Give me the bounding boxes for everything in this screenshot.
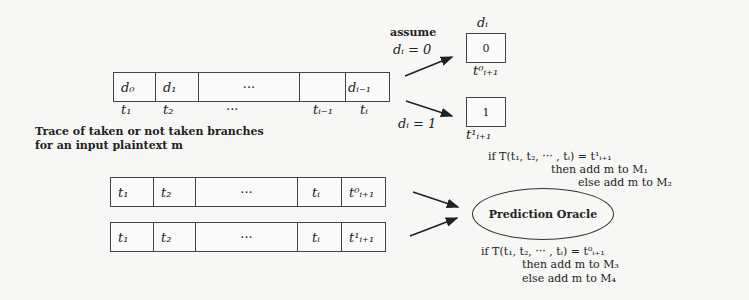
t-label: tᵢ [360,102,368,117]
prediction-oracle: Prediction Oracle [472,188,614,240]
arrow-assume-0 [405,57,452,76]
trace-cell: ··· [196,223,298,251]
trace-cell: ··· [199,73,300,101]
trace-cell: tᵢ [298,223,342,251]
t-label: t₁ [121,102,131,117]
box-zero: 0 [466,33,506,63]
arrow-trace0-to-oracle [413,192,458,207]
trace-cell: t¹ᵢ₊₁ [342,223,385,251]
trace-cell: t⁰ᵢ₊₁ [342,178,385,206]
top-trace-row: d₀ d₁ ··· dᵢ₋₁ [113,72,390,102]
trace-cell: t₁ [111,178,154,206]
trace-cell: tᵢ [298,178,342,206]
rule1-if: if T(t₁, t₂, ··· , tᵢ) = t¹ᵢ₊₁ [488,150,612,163]
assume-label: assume [390,26,436,39]
trace-cell: ··· [196,178,298,206]
rule2-else: else add m to M₄ [522,272,616,285]
trace-caption-line1: Trace of taken or not taken branches [35,125,264,138]
case-d-0: dᵢ = 0 [393,42,431,57]
rule2-then: then add m to M₃ [522,258,619,271]
t-label: t₂ [163,102,173,117]
arrow-assume-1 [406,101,452,116]
trace-cell [300,73,346,101]
rule1-then: then add m to M₁ [551,163,648,176]
t-label: tᵢ₋₁ [313,102,333,117]
trace-cell: t₂ [154,223,196,251]
rule1-else: else add m to M₂ [578,176,672,189]
trace-cell: t₂ [154,178,196,206]
trace-row-t0: t₁ t₂ ··· tᵢ t⁰ᵢ₊₁ [110,177,386,207]
box-one: 1 [466,97,506,127]
trace-caption-line2: for an input plaintext m [35,139,183,152]
box0-label: t⁰ᵢ₊₁ [473,63,498,78]
t-label: ··· [226,102,238,117]
trace-cell: d₀ [114,73,156,101]
rule2-if: if T(t₁, t₂, ··· , tᵢ) = t⁰ᵢ₊₁ [481,245,605,258]
arrow-trace1-to-oracle [410,218,457,236]
trace-cell: t₁ [111,223,154,251]
trace-cell: dᵢ₋₁ [346,73,389,101]
trace-row-t1: t₁ t₂ ··· tᵢ t¹ᵢ₊₁ [110,222,386,252]
box1-label: t¹ᵢ₊₁ [466,127,491,142]
trace-cell: d₁ [156,73,199,101]
box-top-label: dᵢ [477,15,488,30]
case-d-1: dᵢ = 1 [398,116,436,131]
